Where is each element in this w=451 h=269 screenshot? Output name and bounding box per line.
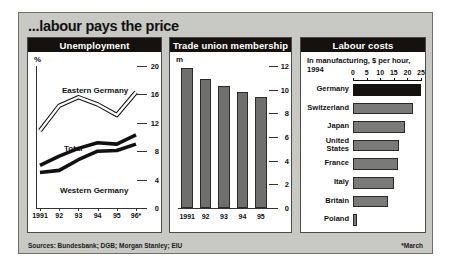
union-unit-label: m <box>176 55 183 64</box>
union-ytick-line <box>269 208 278 209</box>
labour-costs-scale-20: 20 <box>403 69 411 76</box>
unemployment-xtick-mark <box>117 208 118 211</box>
labour-costs-label-japan: Japan <box>301 122 349 130</box>
labour-costs-scale-tick <box>421 78 422 81</box>
labour-costs-label-italy: Italy <box>301 178 349 186</box>
union-baseline <box>178 208 270 209</box>
unemployment-xtick-93: 93 <box>74 212 82 219</box>
union-bar <box>255 97 266 208</box>
unemployment-y-axis-line <box>36 66 37 208</box>
labour-costs-bar <box>353 84 421 96</box>
unemployment-unit-label: % <box>34 55 41 64</box>
unemployment-ytick-12: 12 <box>151 118 159 127</box>
labour-costs-bar <box>353 177 394 189</box>
unemployment-ytick-line <box>137 151 147 152</box>
unemployment-xtick-96star: 96* <box>131 212 142 219</box>
labour-costs-bar <box>353 214 357 226</box>
unemployment-xtick-95: 95 <box>113 212 121 219</box>
series-label-western-germany: Western Germany <box>60 186 128 195</box>
labour-costs-scale-5: 5 <box>365 69 369 76</box>
panel-costs-body: In manufacturing, $ per hour, 1994 05101… <box>301 52 425 232</box>
union-plot-area <box>178 66 270 208</box>
panel-unemployment-body: % 048121620 19919293949596* Eastern Germ… <box>28 52 161 232</box>
labour-costs-label-switzerland: Switzerland <box>301 104 349 112</box>
union-bar <box>218 86 229 208</box>
union-ytick-line <box>269 184 278 185</box>
labour-costs-scale-15: 15 <box>390 69 398 76</box>
panel-unemployment: Unemployment % 048121620 19919293949596*… <box>27 37 162 233</box>
unemployment-ytick-4: 4 <box>155 175 159 184</box>
union-ytick-line <box>269 66 278 67</box>
figure-container: ...labour pays the price Unemployment % … <box>18 12 433 254</box>
footnote: *March <box>401 242 423 249</box>
labour-costs-scale-rule <box>353 80 421 81</box>
labour-costs-label-france: France <box>301 159 349 167</box>
series-label-total: Total <box>64 144 83 153</box>
unemployment-ytick-20: 20 <box>151 62 159 71</box>
unemployment-xtick-1991: 1991 <box>32 212 48 219</box>
union-ytick-10: 10 <box>281 85 289 94</box>
panel-union-body: m 024681012 199192939495 <box>170 52 291 232</box>
unemployment-xtick-mark <box>136 208 137 211</box>
panel-costs-title: Labour costs <box>301 38 425 52</box>
union-bar <box>181 68 192 208</box>
labour-costs-label-britain: Britain <box>301 197 349 205</box>
labour-costs-bar <box>353 140 399 152</box>
union-bar <box>200 79 211 208</box>
unemployment-ytick-line <box>137 94 147 95</box>
panel-labour-costs: Labour costs In manufacturing, $ per hou… <box>300 37 426 233</box>
panel-trade-union-membership: Trade union membership m 024681012 19919… <box>169 37 292 233</box>
panel-union-title: Trade union membership <box>170 38 291 52</box>
union-xtick-94: 94 <box>238 213 246 220</box>
union-ytick-6: 6 <box>285 133 289 142</box>
series-label-eastern-germany: Eastern Germany <box>62 86 128 95</box>
unemployment-xtick-mark <box>40 208 41 211</box>
labour-costs-scale-10: 10 <box>376 69 384 76</box>
labour-costs-bar <box>353 196 388 208</box>
unemployment-xtick-94: 94 <box>94 212 102 219</box>
unemployment-ytick-8: 8 <box>155 147 159 156</box>
union-ytick-12: 12 <box>281 62 289 71</box>
source-line: Sources: Bundesbank; DGB; Morgan Stanley… <box>28 242 182 249</box>
union-ytick-line <box>269 113 278 114</box>
labour-costs-label-germany: Germany <box>301 85 349 93</box>
union-xtick-1991: 1991 <box>179 213 195 220</box>
union-xtick-93: 93 <box>220 213 228 220</box>
union-ytick-2: 2 <box>285 180 289 189</box>
union-ytick-line <box>269 90 278 91</box>
union-ytick-0: 0 <box>285 204 289 213</box>
union-bar <box>237 92 248 208</box>
unemployment-baseline <box>36 208 140 209</box>
unemployment-xtick-mark <box>98 208 99 211</box>
labour-costs-label-united-states: UnitedStates <box>301 137 349 153</box>
labour-costs-label-poland: Poland <box>301 215 349 223</box>
unemployment-xtick-mark <box>59 208 60 211</box>
labour-costs-bar <box>353 121 405 133</box>
labour-costs-scale-25: 25 <box>417 69 425 76</box>
unemployment-ytick-line <box>137 180 147 181</box>
unemployment-ytick-16: 16 <box>151 90 159 99</box>
labour-costs-bar <box>353 103 413 115</box>
unemployment-xtick-92: 92 <box>55 212 63 219</box>
union-ytick-8: 8 <box>285 109 289 118</box>
unemployment-ytick-0: 0 <box>155 204 159 213</box>
unemployment-xtick-mark <box>78 208 79 211</box>
unemployment-ytick-line <box>137 66 147 67</box>
unemployment-ytick-line <box>137 123 147 124</box>
labour-costs-scale-0: 0 <box>351 69 355 76</box>
union-ytick-line <box>269 161 278 162</box>
figure-title: ...labour pays the price <box>28 18 179 34</box>
panel-unemployment-title: Unemployment <box>28 38 161 52</box>
union-xtick-92: 92 <box>202 213 210 220</box>
union-ytick-4: 4 <box>285 156 289 165</box>
union-xtick-95: 95 <box>257 213 265 220</box>
labour-costs-bar <box>353 158 398 170</box>
union-ytick-line <box>269 137 278 138</box>
labour-costs-scale: 0510152025 <box>301 69 425 82</box>
